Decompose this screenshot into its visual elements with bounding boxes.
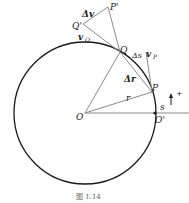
label-q: Q: [120, 45, 128, 55]
label-plus: +: [176, 89, 183, 98]
label-v-q: v: [78, 32, 84, 42]
velocity-p-translated: [108, 7, 120, 52]
label-p-prime: P': [109, 2, 119, 12]
diagram-canvas: O O' P P' Q Q' r s + Δs Δr Δv v Q v P 图 …: [0, 0, 189, 203]
label-r: r: [126, 93, 131, 103]
label-o-prime: O': [155, 115, 165, 125]
label-v-q-sub: Q: [85, 36, 90, 43]
label-p: P: [151, 83, 159, 93]
label-v-p-sub: P: [152, 53, 158, 60]
label-delta-r: Δr: [123, 74, 137, 84]
label-o: O: [76, 112, 84, 122]
label-v-p: v: [146, 49, 152, 59]
figure-caption: 图 1.14: [76, 193, 101, 201]
label-q-prime: Q': [72, 21, 82, 31]
circular-motion-diagram: O O' P P' Q Q' r s + Δs Δr Δv v Q v P 图 …: [0, 0, 189, 203]
arrow-head-icon: [169, 93, 173, 98]
label-delta-s: Δs: [131, 51, 142, 60]
label-s: s: [160, 102, 165, 112]
label-delta-v: Δv: [81, 9, 95, 19]
